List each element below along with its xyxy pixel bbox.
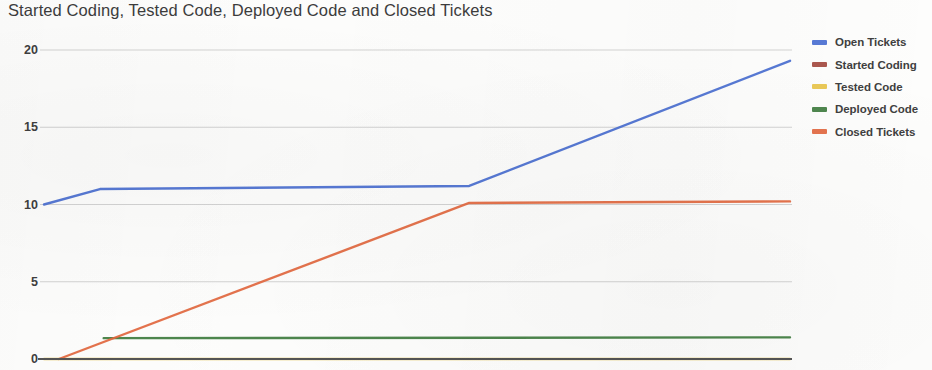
legend-swatch-icon	[812, 62, 827, 67]
legend-item[interactable]: Deployed Code	[812, 98, 932, 120]
legend-swatch-icon	[812, 129, 827, 134]
gridlines	[40, 50, 792, 282]
legend-label: Open Tickets	[835, 36, 906, 48]
legend-label: Tested Code	[835, 81, 903, 93]
legend-label: Deployed Code	[835, 103, 918, 115]
legend-label: Started Coding	[835, 59, 917, 71]
legend-item[interactable]: Tested Code	[812, 76, 932, 98]
legend-swatch-icon	[812, 40, 827, 45]
legend: Open TicketsStarted CodingTested CodeDep…	[812, 31, 932, 143]
series-line	[44, 61, 790, 205]
legend-label: Closed Tickets	[835, 126, 915, 138]
series-lines	[44, 61, 790, 359]
legend-item[interactable]: Open Tickets	[812, 31, 932, 53]
legend-item[interactable]: Started Coding	[812, 53, 932, 75]
chart-container: Started Coding, Tested Code, Deployed Co…	[0, 0, 932, 370]
legend-swatch-icon	[812, 84, 827, 89]
plot-area	[0, 0, 932, 370]
series-line	[104, 337, 790, 338]
legend-item[interactable]: Closed Tickets	[812, 121, 932, 143]
legend-swatch-icon	[812, 107, 827, 112]
series-line	[59, 201, 790, 359]
